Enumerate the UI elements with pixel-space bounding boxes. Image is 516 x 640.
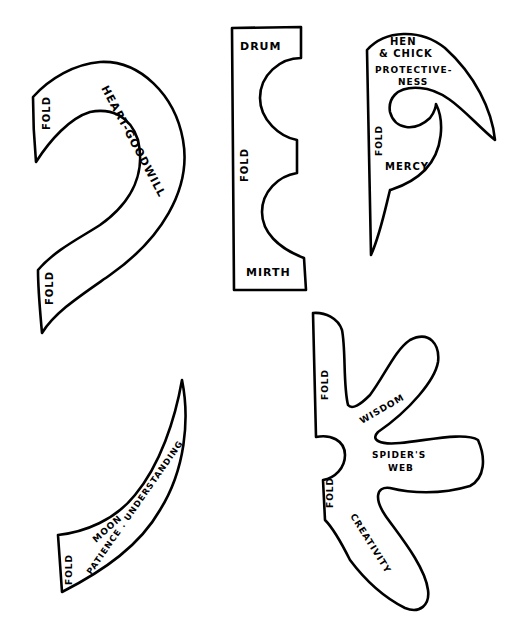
moon-shape bbox=[58, 380, 186, 592]
templates-canvas: HEART-GOODWILL FOLD FOLD DRUM FOLD MIRTH… bbox=[0, 0, 516, 640]
template-hen-chick: HEN & CHICK PROTECTIVE- NESS FOLD MERCY bbox=[367, 34, 495, 255]
fold-label-top: FOLD bbox=[320, 369, 330, 400]
fold-label-bottom: FOLD bbox=[44, 271, 55, 305]
web-label: WEB bbox=[388, 463, 414, 473]
fold-label: FOLD bbox=[374, 125, 384, 156]
fold-label: FOLD bbox=[239, 148, 250, 182]
spiders-web-shape bbox=[313, 313, 483, 610]
drum-label: DRUM bbox=[240, 40, 281, 53]
protectiveness-label: PROTECTIVE- bbox=[375, 65, 452, 75]
spiders-label: SPIDER'S bbox=[372, 450, 426, 460]
mirth-label: MIRTH bbox=[246, 266, 291, 279]
fold-label-top: FOLD bbox=[41, 96, 52, 130]
fold-label-bottom: FOLD bbox=[325, 477, 335, 508]
template-moon: MOON PATIENCE . UNDERSTANDING FOLD bbox=[58, 380, 186, 592]
chick-label: & CHICK bbox=[379, 48, 433, 59]
patience-understanding-label: PATIENCE . UNDERSTANDING bbox=[84, 438, 185, 576]
fold-label: FOLD bbox=[64, 554, 74, 585]
hen-label: HEN bbox=[390, 36, 417, 47]
ness-label: NESS bbox=[398, 77, 428, 87]
template-drum-mirth: DRUM FOLD MIRTH bbox=[232, 27, 306, 290]
mercy-label: MERCY bbox=[385, 161, 429, 172]
template-spiders-web: FOLD WISDOM SPIDER'S WEB FOLD CREATIVITY bbox=[313, 313, 483, 610]
template-heart-goodwill: HEART-GOODWILL FOLD FOLD bbox=[33, 62, 185, 333]
